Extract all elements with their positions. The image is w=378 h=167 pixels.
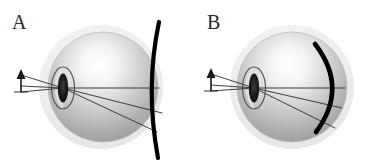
panel-a-diagram [0,0,189,167]
object-arrow [204,68,218,91]
eye-optics-figure: A [0,0,378,167]
object-arrow [14,69,28,92]
panel-b: B [189,0,378,167]
panel-a: A [0,0,189,167]
panel-b-diagram [189,0,378,167]
